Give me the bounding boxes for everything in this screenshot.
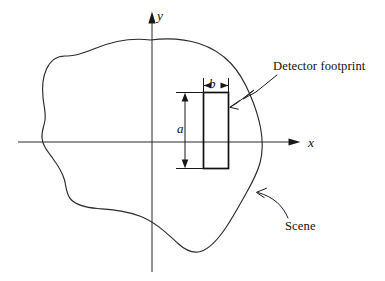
y-axis-label: y — [157, 9, 163, 23]
dimension-b-arrowhead-right — [221, 83, 229, 89]
diagram-svg — [0, 0, 385, 281]
y-axis-arrowhead — [148, 12, 155, 24]
dimension-a-arrowhead-bottom — [182, 160, 189, 169]
x-axis-label: x — [308, 136, 314, 150]
x-axis-arrowhead — [289, 138, 301, 145]
detector-footprint-label: Detector footprint — [273, 60, 365, 73]
dimension-a-label: a — [177, 122, 184, 135]
scene-label: Scene — [285, 220, 316, 233]
scene-leader-arrowhead — [256, 188, 266, 197]
dimension-a-arrowhead-top — [182, 93, 189, 102]
detector-footprint-rectangle — [204, 93, 229, 169]
dimension-b-label: b — [209, 77, 216, 90]
figure-canvas: y x a b Detector footprint Scene — [0, 0, 385, 281]
